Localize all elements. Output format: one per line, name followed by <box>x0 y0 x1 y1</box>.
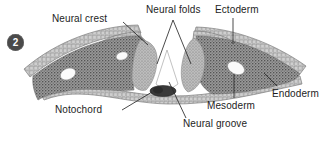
label-neural-groove: Neural groove <box>183 118 247 129</box>
label-notochord: Notochord <box>55 104 102 115</box>
label-neural-crest: Neural crest <box>52 13 107 24</box>
label-endoderm: Endoderm <box>272 88 319 99</box>
panel-number-badge: 2 <box>7 34 24 51</box>
label-mesoderm: Mesoderm <box>207 100 255 111</box>
notochord-core <box>153 86 163 93</box>
leader-neural-folds-right <box>173 20 191 64</box>
label-ectoderm: Ectoderm <box>215 4 259 15</box>
embryo-neurulation-figure: 2 Neural crest Neural folds Ectoderm End… <box>0 0 336 142</box>
label-neural-folds: Neural folds <box>146 4 201 15</box>
cross-section-drawing <box>0 0 336 142</box>
